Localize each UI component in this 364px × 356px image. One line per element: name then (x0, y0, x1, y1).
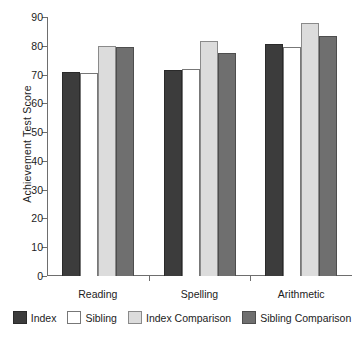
x-axis-tick-mark (250, 276, 251, 281)
bar-reading-sibling[interactable] (80, 73, 98, 276)
y-axis-line (47, 17, 48, 276)
y-axis-tick-label: 30 (31, 184, 43, 196)
y-axis-tick-label: 40 (31, 155, 43, 167)
y-axis-tick-label: 80 (31, 40, 43, 52)
y-axis-tick-label: 0 (37, 270, 43, 282)
bar-group: Arithmetic (265, 17, 337, 276)
y-axis-tick-label: 70 (31, 69, 43, 81)
bar-group: Spelling (164, 17, 236, 276)
bar-spelling-index-comparison[interactable] (200, 41, 218, 276)
legend-swatch-icon (13, 311, 27, 324)
legend-item-index-comparison[interactable]: Index Comparison (128, 311, 231, 324)
legend-swatch-icon (67, 311, 81, 324)
bar-spelling-sibling[interactable] (182, 69, 200, 276)
legend-label: Index (31, 312, 57, 324)
bar-group-bars (164, 17, 236, 276)
bar-chart: Achievement Test Score 01020304050607080… (0, 0, 364, 356)
x-axis-label-reading: Reading (78, 288, 117, 300)
bar-group-bars (265, 17, 337, 276)
bar-spelling-index[interactable] (164, 70, 182, 276)
legend-swatch-icon (128, 311, 142, 324)
y-axis-tick-label: 10 (31, 241, 43, 253)
legend-label: Index Comparison (146, 312, 231, 324)
legend-label: Sibling (85, 312, 117, 324)
legend-swatch-icon (242, 311, 256, 324)
chart-legend: IndexSiblingIndex ComparisonSibling Comp… (0, 311, 364, 324)
bar-arithmetic-sibling-comparison[interactable] (319, 36, 337, 276)
bar-reading-index-comparison[interactable] (98, 46, 116, 276)
y-axis-tick-label: 20 (31, 212, 43, 224)
legend-item-index[interactable]: Index (13, 311, 57, 324)
x-axis-label-arithmetic: Arithmetic (278, 288, 325, 300)
legend-item-sibling[interactable]: Sibling (67, 311, 117, 324)
y-axis-title: Achievement Test Score (21, 24, 33, 264)
legend-label: Sibling Comparison (260, 312, 351, 324)
bar-reading-index[interactable] (62, 72, 80, 276)
plot-area: 0102030405060708090 ReadingSpellingArith… (47, 17, 352, 276)
y-axis-tick-label: 50 (31, 126, 43, 138)
bar-arithmetic-sibling[interactable] (283, 47, 301, 276)
bar-group: Reading (62, 17, 134, 276)
bar-arithmetic-index-comparison[interactable] (301, 23, 319, 276)
y-axis-tick-label: 60 (31, 97, 43, 109)
bar-spelling-sibling-comparison[interactable] (218, 53, 236, 276)
legend-item-sibling-comparison[interactable]: Sibling Comparison (242, 311, 351, 324)
y-axis-tick-label: 90 (31, 11, 43, 23)
bar-reading-sibling-comparison[interactable] (116, 47, 134, 276)
x-axis-label-spelling: Spelling (181, 288, 218, 300)
bar-group-bars (62, 17, 134, 276)
x-axis-tick-mark (149, 276, 150, 281)
bar-arithmetic-index[interactable] (265, 44, 283, 276)
